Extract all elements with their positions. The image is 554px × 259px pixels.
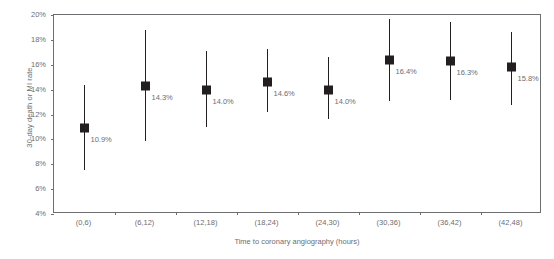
y-axis-tick-label: 18% (12, 34, 46, 43)
data-point-marker (263, 78, 272, 87)
data-point-marker (385, 55, 394, 64)
data-point-value-label: 14.0% (213, 96, 234, 105)
x-axis-tick-label: (42,48) (499, 218, 523, 227)
y-axis-tick-mark (51, 65, 54, 66)
y-axis-tick-label: 12% (12, 109, 46, 118)
y-axis-tick-mark (51, 189, 54, 190)
y-axis-tick-mark (51, 115, 54, 116)
y-axis-tick-mark (51, 139, 54, 140)
x-axis-tick-label: (0,6) (76, 218, 91, 227)
x-axis-tick-label: (24,30) (316, 218, 340, 227)
x-axis-tick-label: (30,36) (377, 218, 401, 227)
x-axis-tick-label: (12,18) (194, 218, 218, 227)
y-axis-tick-label: 8% (12, 159, 46, 168)
x-axis-title: Time to coronary angiography (hours) (53, 237, 541, 246)
y-axis-tick-label: 10% (12, 134, 46, 143)
data-point-marker (324, 85, 333, 94)
y-axis-tick-mark (51, 15, 54, 16)
y-axis-tick-label: 4% (12, 209, 46, 218)
data-point-marker (141, 81, 150, 90)
y-axis-tick-labels: 20%18%16%14%12%10%8%6%4% (8, 0, 46, 259)
chart-figure: 30-day death or MI rate 20%18%16%14%12%1… (0, 0, 554, 259)
plot-area: 10.9%14.3%14.0%14.6%14.0%16.4%16.3%15.8% (53, 14, 541, 213)
y-axis-tick-mark (51, 90, 54, 91)
data-point-value-label: 16.4% (396, 66, 417, 75)
data-point-value-label: 14.6% (274, 89, 295, 98)
x-axis-tick-label: (6,12) (135, 218, 155, 227)
data-point-value-label: 10.9% (91, 135, 112, 144)
x-axis-tick-label: (36,42) (438, 218, 462, 227)
data-point-value-label: 15.8% (518, 74, 539, 83)
data-point-marker (80, 124, 89, 133)
x-axis-tick-mark (359, 212, 360, 215)
x-axis-tick-mark (237, 212, 238, 215)
data-point-value-label: 16.3% (457, 68, 478, 77)
x-axis-tick-mark (176, 212, 177, 215)
y-axis-tick-mark (51, 164, 54, 165)
x-axis-tick-mark (420, 212, 421, 215)
data-point-marker (202, 85, 211, 94)
data-point-value-label: 14.0% (335, 96, 356, 105)
y-axis-tick-label: 14% (12, 84, 46, 93)
y-axis-tick-label: 20% (12, 10, 46, 19)
x-axis-tick-mark (481, 212, 482, 215)
y-axis-tick-label: 16% (12, 59, 46, 68)
data-point-marker (507, 63, 516, 72)
y-axis-tick-label: 6% (12, 184, 46, 193)
x-axis-tick-label: (18,24) (255, 218, 279, 227)
data-point-value-label: 14.3% (152, 92, 173, 101)
y-axis-tick-mark (51, 40, 54, 41)
y-axis-tick-mark (51, 214, 54, 215)
data-point-marker (446, 57, 455, 66)
x-axis-tick-mark (115, 212, 116, 215)
x-axis-tick-mark (298, 212, 299, 215)
